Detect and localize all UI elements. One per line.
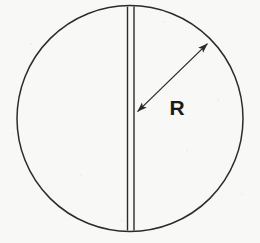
radius-label: R	[169, 96, 184, 119]
circle-slit-diagram: R	[0, 0, 260, 243]
figure-container: R	[0, 0, 260, 243]
circle-outline	[17, 6, 243, 232]
